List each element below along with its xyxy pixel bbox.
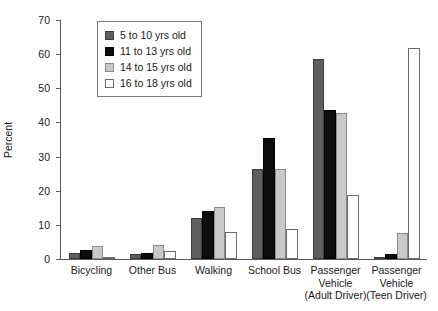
bar: [92, 246, 104, 259]
bar: [103, 257, 115, 259]
bar: [141, 253, 153, 259]
bar: [286, 229, 298, 259]
legend-item: 5 to 10 yrs old: [105, 27, 192, 43]
legend-swatch: [105, 47, 114, 56]
bar: [202, 211, 214, 259]
bar-group: [252, 20, 298, 259]
bar: [385, 254, 397, 259]
bar: [214, 207, 226, 259]
bar: [252, 169, 264, 259]
bar-chart: Percent 010203040506070 BicyclingOther B…: [0, 0, 438, 311]
y-axis-title: Percent: [2, 122, 14, 158]
y-tick-label: 70: [38, 15, 50, 26]
bar: [153, 245, 165, 259]
bar: [313, 59, 325, 259]
legend-item: 16 to 18 yrs old: [105, 75, 192, 91]
y-tick-mark: [56, 259, 61, 260]
legend-swatch: [105, 79, 114, 88]
legend-label: 5 to 10 yrs old: [120, 30, 186, 41]
bar: [347, 195, 359, 259]
legend: 5 to 10 yrs old11 to 13 yrs old14 to 15 …: [97, 21, 202, 97]
y-tick-label: 0: [44, 254, 50, 265]
bar: [397, 233, 409, 259]
y-tick-label: 20: [38, 185, 50, 196]
bar: [336, 113, 348, 259]
y-tick-label: 40: [38, 117, 50, 128]
bar: [130, 254, 142, 259]
bar: [69, 253, 81, 259]
legend-swatch: [105, 63, 114, 72]
bar: [164, 251, 176, 259]
legend-label: 11 to 13 yrs old: [120, 46, 191, 57]
bar: [225, 232, 237, 259]
legend-item: 11 to 13 yrs old: [105, 43, 192, 59]
bar: [324, 110, 336, 259]
bar: [408, 48, 420, 259]
y-tick-label: 50: [38, 83, 50, 94]
y-tick-label: 30: [38, 151, 50, 162]
bar: [80, 250, 92, 259]
legend-label: 14 to 15 yrs old: [120, 62, 192, 73]
legend-swatch: [105, 31, 114, 40]
x-axis-label: PassengerVehicle(Teen Driver): [360, 264, 433, 302]
y-tick-label: 10: [38, 220, 50, 231]
bar-group: [313, 20, 359, 259]
x-axis-line: [60, 259, 427, 260]
bar: [275, 169, 287, 259]
y-tick-label: 60: [38, 49, 50, 60]
bar: [374, 257, 386, 259]
bar: [263, 138, 275, 259]
legend-label: 16 to 18 yrs old: [120, 78, 192, 89]
legend-item: 14 to 15 yrs old: [105, 59, 192, 75]
bar-group: [374, 20, 420, 259]
bar: [191, 218, 203, 259]
